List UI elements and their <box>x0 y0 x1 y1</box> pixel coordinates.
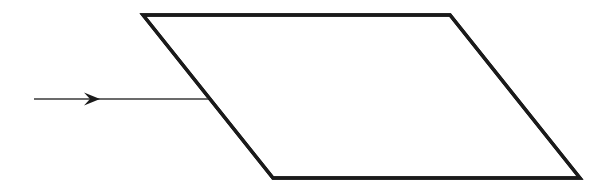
figure-canvas <box>0 0 589 193</box>
geometry-diagram <box>0 0 589 193</box>
